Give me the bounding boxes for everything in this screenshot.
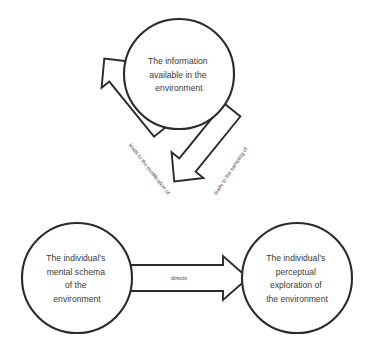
edge-schema-to-exploration: directs — [126, 256, 248, 300]
node-information-line-2: available in the — [149, 70, 207, 80]
node-perceptual-exploration[interactable]: The individual’s perceptual exploration … — [242, 223, 352, 333]
node-perceptual-exploration-circle[interactable] — [242, 223, 352, 333]
node-mental-schema-circle[interactable] — [22, 223, 132, 333]
diagram-canvas: leads to the modification of leads to th… — [0, 0, 367, 347]
node-perceptual-exploration-line-3: exploration of — [270, 280, 322, 290]
arrow-right-icon — [126, 256, 248, 300]
edge-label-exploration-to-information: leads to the sampling of — [212, 146, 249, 196]
node-mental-schema-line-2: mental schema — [47, 267, 105, 277]
edge-label-schema-to-exploration: directs — [171, 275, 187, 281]
node-perceptual-exploration-line-1: The individual’s — [266, 253, 325, 263]
node-mental-schema-line-3: of the — [65, 280, 87, 290]
node-mental-schema[interactable]: The individual’s mental schema of the en… — [22, 223, 132, 333]
node-mental-schema-line-1: The individual’s — [46, 253, 105, 263]
node-information-line-3: environment — [155, 83, 203, 93]
node-perceptual-exploration-line-2: perceptual — [276, 267, 316, 277]
node-information-label: The information available in the environ… — [148, 56, 210, 93]
node-information-line-1: The information — [148, 56, 208, 66]
node-mental-schema-line-4: environment — [53, 294, 101, 304]
node-perceptual-exploration-line-4: the environment — [266, 294, 328, 304]
edge-label-information-to-schema: leads to the modification of — [128, 142, 172, 196]
node-information[interactable]: The information available in the environ… — [124, 19, 234, 129]
cycle-diagram: leads to the modification of leads to th… — [0, 0, 367, 347]
